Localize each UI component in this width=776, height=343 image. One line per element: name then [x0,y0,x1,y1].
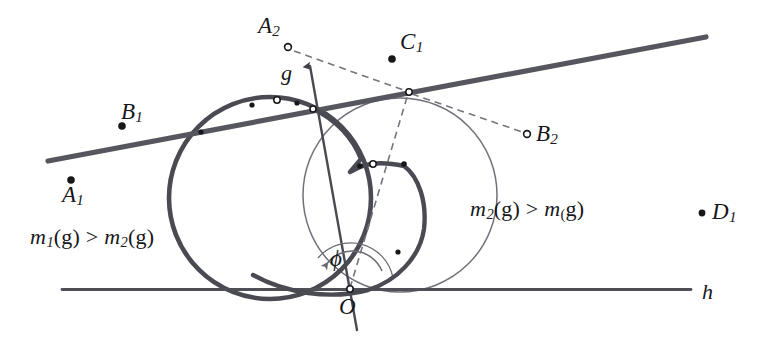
label-b1-base: B [121,99,135,124]
dashed-o-radius [350,94,408,288]
tick-dot-curve-right [401,161,407,167]
label-point-b2: B2 [536,122,558,147]
tick-dot-curve-lower [395,249,400,254]
formula-left: m1(g) > m2(g) [30,226,154,250]
label-a2-sub: 2 [272,22,280,39]
marker-on-g-circle [406,89,412,95]
formula-right-m1: m [470,196,486,221]
label-a2-base: A [258,13,272,38]
marker-point-C1 [388,55,396,63]
label-b1-sub: 1 [135,108,143,125]
marker-arc-open-left [274,97,280,103]
formula-left-m2: m [104,224,120,249]
label-point-a2: A2 [258,14,280,39]
formula-right-arg2: g) [566,196,585,221]
tick-dot-left-g [198,129,203,134]
formula-left-sub2: 2 [121,234,128,250]
formula-right-rel: > [520,196,544,221]
tick-dot-curve-notch [357,163,363,169]
label-c1-sub: 1 [416,38,424,55]
marker-point-B2 [524,131,531,138]
marker-point-A2 [285,44,292,51]
label-angle-phi: ϕ [330,247,342,270]
marker-vertex [310,106,316,112]
tick-dot-mid-g [249,102,254,107]
marker-curve-open [370,161,376,167]
formula-left-m1: m [30,224,46,249]
figure-canvas [0,0,776,343]
formula-right-m2: m [544,196,560,221]
label-point-o: O [339,295,356,318]
label-line-g: g [281,62,292,84]
label-b2-base: B [536,121,550,146]
formula-left-rel: > [80,224,104,249]
label-b2-sub: 2 [550,130,558,147]
label-a1-sub: 1 [76,191,84,208]
formula-left-arg2: (g) [128,224,154,249]
formula-right-sub1: 2 [486,206,493,222]
label-point-b1: B1 [121,100,143,125]
formula-left-sub1: 1 [46,234,53,250]
label-d1-base: D [712,199,729,224]
label-point-a1: A1 [62,183,84,208]
geometry-figure: A2 B1 A1 C1 B2 D1 O g h ϕ m1(g) > m2(g) … [0,0,776,343]
label-d1-sub: 1 [729,208,737,225]
marker-point-O [347,286,353,292]
tick-dot-vertex-left [294,100,299,105]
label-line-h: h [702,281,713,303]
formula-right: m2(g) > m(g) [470,198,584,222]
label-a1-base: A [62,182,76,207]
marker-point-D1 [699,210,706,217]
formula-left-arg1: (g) [54,224,80,249]
label-point-d1: D1 [712,200,737,225]
formula-right-arg1: (g) [494,196,520,221]
line-g [48,37,706,161]
label-point-c1: C1 [400,30,423,55]
label-c1-base: C [400,29,415,54]
